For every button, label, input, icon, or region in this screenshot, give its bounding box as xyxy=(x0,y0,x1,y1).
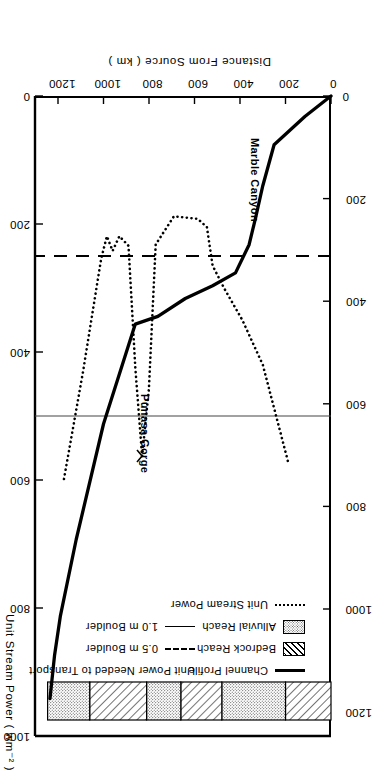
y-right-tick-400: 400 xyxy=(10,347,30,359)
y-left-tick-1200: 1200 xyxy=(345,707,372,719)
x-tick-400: 400 xyxy=(233,78,253,90)
legend-label-unit-stream-power: Unit Stream Power xyxy=(171,599,268,611)
thin-line-icon xyxy=(165,627,195,628)
y-left-tick-800: 800 xyxy=(346,501,366,513)
reach-type-band xyxy=(48,682,331,720)
x-tick-600: 600 xyxy=(188,78,208,90)
y-left-tick-400: 400 xyxy=(346,296,366,308)
annotation-marble-canyon: Marble Canyon xyxy=(249,138,261,222)
x-tick-0: 0 xyxy=(330,78,337,90)
solid-line-icon xyxy=(275,670,305,673)
legend-label-alluvial-reach: Alluvial Reach xyxy=(202,621,276,633)
x-axis-label: Distance From Source ( km ) xyxy=(108,56,271,68)
legend-label-unit-power-needed: Unit Power Needed to Transport xyxy=(29,665,195,677)
chart-figure: 0 200 400 600 800 1000 1200 Distance Fro… xyxy=(0,0,389,774)
legend-label-1m-boulder: 1.0 m Boulder xyxy=(86,621,158,633)
legend-heading-unit-power-needed: Unit Power Needed to Transport xyxy=(29,660,195,682)
legend-item-05m-boulder: 0.5 m Boulder xyxy=(29,638,195,660)
legend-item-1m-boulder: 1.0 m Boulder xyxy=(29,616,195,638)
legend-label-05m-boulder: 0.5 m Boulder xyxy=(86,643,158,655)
y-left-tick-0: 0 xyxy=(342,91,349,103)
y-left-tick-200: 200 xyxy=(346,194,366,206)
x-tick-800: 800 xyxy=(142,78,162,90)
legend-right-column: Unit Power Needed to Transport 0.5 m Bou… xyxy=(29,616,195,682)
legend-label-bedrock-reach: Bedrock Reach xyxy=(197,643,276,655)
hatched-box-icon xyxy=(283,642,305,656)
y-left-tick-1000: 1000 xyxy=(345,604,372,616)
figure-rotation-wrapper: 0 200 400 600 800 1000 1200 Distance Fro… xyxy=(0,0,389,774)
y-right-axis-label: Unit Stream Power ( wm⁻² ) xyxy=(3,614,17,771)
x-tick-1000: 1000 xyxy=(94,78,121,90)
dotted-line-icon xyxy=(275,604,305,606)
stippled-box-icon xyxy=(283,620,305,634)
y-right-tick-200: 200 xyxy=(10,219,30,231)
x-axis-ticks xyxy=(58,96,331,104)
chart-legend: Channel Profile Bedrock Reach Alluvial R… xyxy=(91,586,305,682)
y-right-tick-600: 600 xyxy=(10,475,30,487)
x-tick-1200: 1200 xyxy=(49,78,76,90)
y-left-axis-ticks xyxy=(323,96,331,712)
x-tick-200: 200 xyxy=(279,78,299,90)
y-left-tick-600: 600 xyxy=(346,399,366,411)
dashed-line-icon xyxy=(165,648,195,650)
legend-label-channel-profile: Channel Profile xyxy=(188,665,268,677)
legend-item-unit-stream-power: Unit Stream Power xyxy=(171,594,305,616)
annotation-punasa-gorge: Punasa Gorge xyxy=(139,394,151,473)
y-right-tick-0: 0 xyxy=(23,91,30,103)
